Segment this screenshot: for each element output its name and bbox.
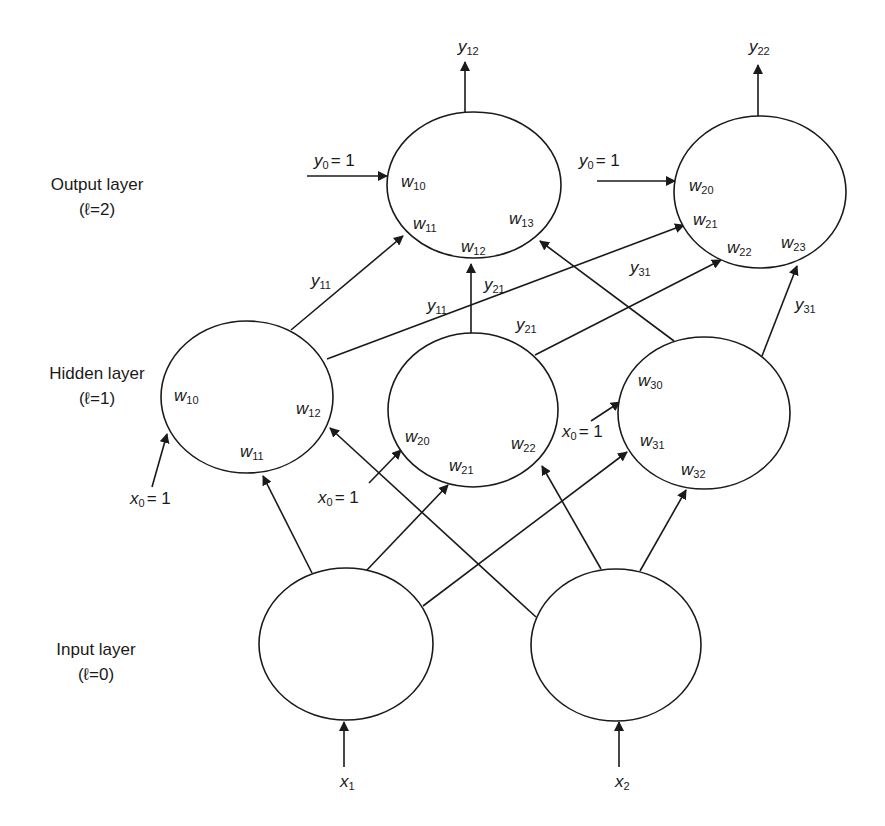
h1-bias-label: x0= 1 — [129, 489, 171, 509]
edge-i2-h3 — [640, 490, 686, 571]
edge-label-h1-o2: y11 — [426, 296, 447, 316]
o2-output-label: y22 — [748, 37, 770, 57]
edge-h3-o1 — [540, 241, 674, 341]
edge-h3-bias — [591, 402, 620, 421]
edge-i1-h1 — [263, 476, 312, 573]
x1-label: x1 — [339, 772, 355, 792]
hidden-layer-index: (ℓ=1) — [79, 389, 115, 408]
input-node-1 — [259, 568, 433, 720]
input-layer-label: Input layer — [56, 640, 136, 659]
o1-bias-label: y0= 1 — [313, 151, 355, 171]
edge-label-h2-o2: y21 — [515, 315, 537, 335]
input-node-2 — [531, 569, 701, 721]
input-layer-index: (ℓ=0) — [78, 665, 114, 684]
edge-h1-bias — [152, 434, 167, 487]
layer-labels: Output layer (ℓ=2) Hidden layer (ℓ=1) In… — [49, 175, 145, 684]
edge-label-h2-o1: y21 — [483, 275, 505, 295]
o2-bias-label: y0= 1 — [578, 151, 620, 171]
h2-bias-label: x0= 1 — [317, 488, 359, 508]
edge-label-h1-o1: y11 — [310, 271, 331, 291]
neural-network-diagram: Output layer (ℓ=2) Hidden layer (ℓ=1) In… — [0, 0, 885, 826]
edge-label-h3-o2-b: y31 — [794, 295, 816, 315]
edge-h1-o1 — [291, 236, 403, 330]
nodes — [161, 112, 846, 721]
h3-bias-label: x0= 1 — [561, 422, 603, 442]
output-layer-label: Output layer — [51, 175, 144, 194]
o1-output-label: y12 — [457, 37, 479, 57]
hidden-node-3 — [618, 337, 790, 489]
x2-label: x2 — [614, 772, 630, 792]
output-layer-index: (ℓ=2) — [79, 200, 115, 219]
edge-h3-o2 — [762, 266, 797, 356]
hidden-layer-label: Hidden layer — [49, 364, 145, 383]
edge-label-h3-o2-a: y31 — [629, 258, 651, 278]
edge-i2-h2 — [542, 466, 601, 569]
